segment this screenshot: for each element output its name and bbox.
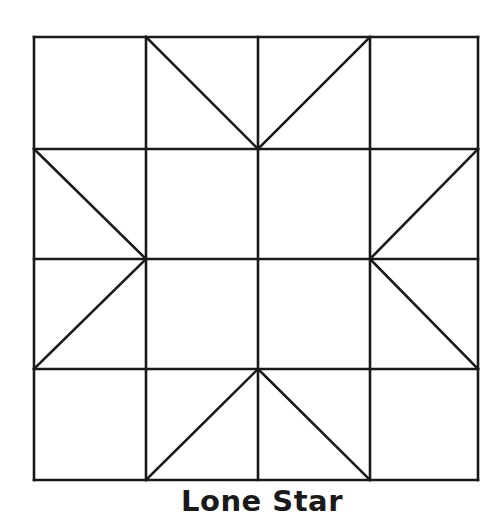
star-point-diagonal bbox=[146, 37, 258, 149]
star-point-diagonal bbox=[258, 37, 370, 149]
diagram-caption: Lone Star bbox=[0, 484, 498, 518]
star-point-diagonal bbox=[146, 369, 258, 480]
star-point-diagonal bbox=[258, 369, 370, 480]
star-point-diagonal bbox=[370, 149, 478, 259]
star-point-diagonal bbox=[34, 259, 146, 369]
star-point-diagonal bbox=[370, 259, 478, 369]
star-point-diagonal bbox=[34, 149, 146, 259]
lone-star-quilt-block bbox=[0, 0, 498, 532]
